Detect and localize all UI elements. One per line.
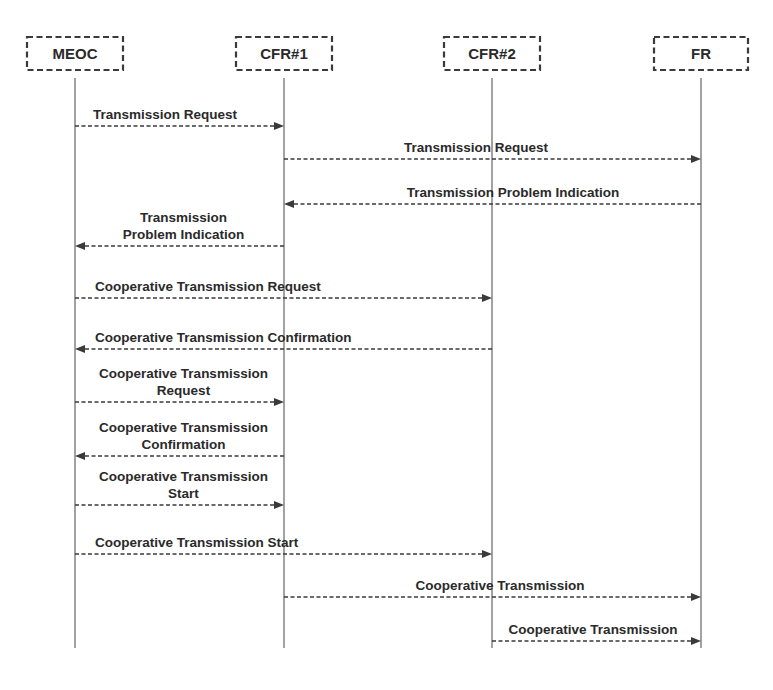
message-4: TransmissionProblem Indication <box>76 210 284 246</box>
message-label-line: Start <box>168 486 199 501</box>
message-label: Cooperative Transmission <box>416 578 585 593</box>
message-label: Cooperative Transmission <box>509 622 678 637</box>
message-label-line: Cooperative Transmission <box>99 366 268 381</box>
message-label-line: Problem Indication <box>123 227 245 242</box>
messages-layer: Transmission RequestTransmission Request… <box>75 107 701 641</box>
message-label: Cooperative Transmission Request <box>95 279 321 294</box>
message-9: Cooperative TransmissionStart <box>75 469 283 505</box>
message-label-line: Cooperative Transmission <box>99 469 268 484</box>
message-3: Transmission Problem Indication <box>285 185 701 204</box>
message-8: Cooperative TransmissionConfirmation <box>76 420 284 456</box>
message-1: Transmission Request <box>75 107 283 126</box>
message-5: Cooperative Transmission Request <box>75 279 491 298</box>
message-label-line: Request <box>157 383 211 398</box>
message-label: Transmission Problem Indication <box>407 185 619 200</box>
message-label-line: Confirmation <box>142 437 226 452</box>
sequence-diagram: MEOCCFR#1CFR#2FR Transmission RequestTra… <box>0 0 773 690</box>
actor-label-cfr2: CFR#2 <box>468 45 516 62</box>
message-label-line: Transmission <box>140 210 227 225</box>
actor-label-cfr1: CFR#1 <box>260 45 308 62</box>
message-label: Transmission Request <box>404 140 549 155</box>
message-label: Cooperative Transmission Confirmation <box>95 330 352 345</box>
actor-fr: FR <box>654 37 748 648</box>
actor-label-meoc: MEOC <box>53 45 98 62</box>
message-10: Cooperative Transmission Start <box>75 535 491 554</box>
actor-label-fr: FR <box>691 45 711 62</box>
message-7: Cooperative TransmissionRequest <box>75 366 283 402</box>
message-12: Cooperative Transmission <box>492 622 700 641</box>
message-label: Cooperative Transmission Start <box>95 535 299 550</box>
message-label-line: Cooperative Transmission <box>99 420 268 435</box>
message-label: Transmission Request <box>93 107 238 122</box>
actor-cfr2: CFR#2 <box>444 37 540 648</box>
